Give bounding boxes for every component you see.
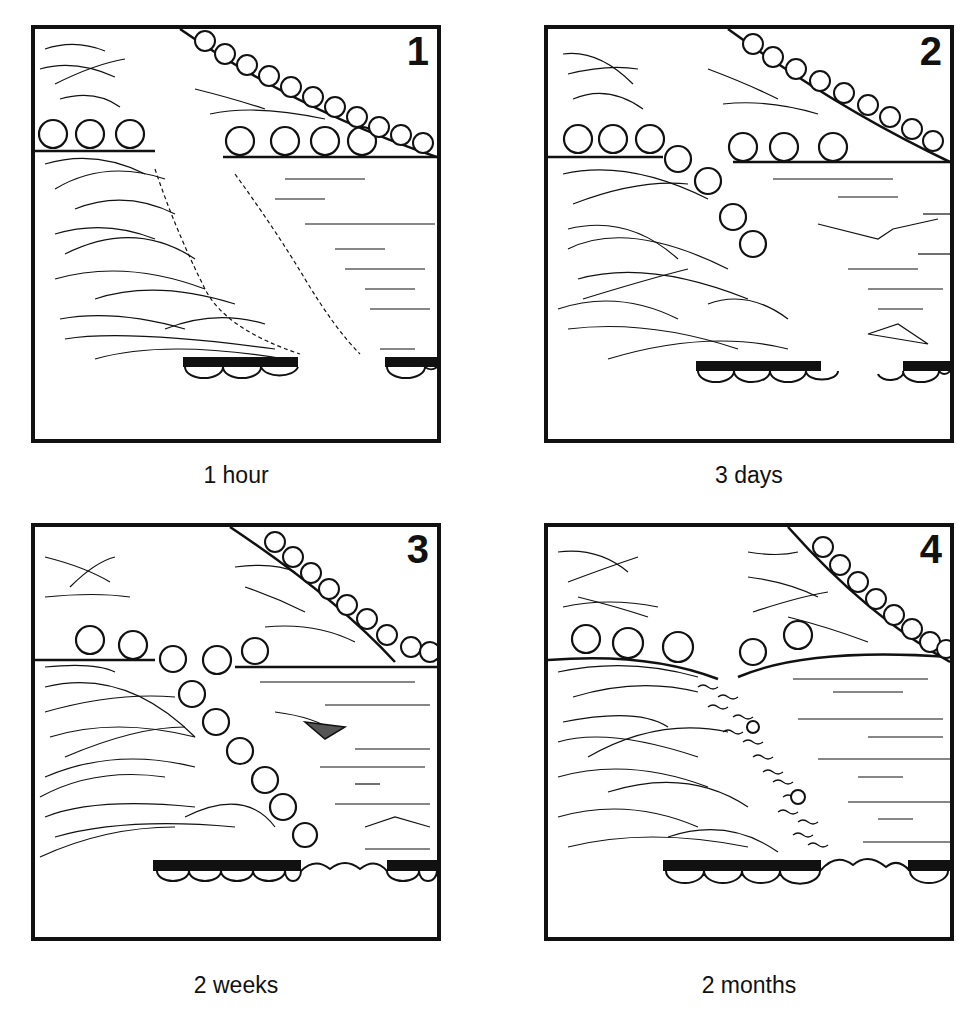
panel-3: 3 <box>31 523 441 941</box>
panel-3-caption: 2 weeks <box>31 972 441 999</box>
panel-1-caption: 1 hour <box>31 462 441 489</box>
panel-4-caption: 2 months <box>544 972 954 999</box>
panel-4: 4 <box>544 523 954 941</box>
panel-number: 1 <box>407 31 429 71</box>
panel-2-illustration <box>548 29 950 439</box>
panel-number: 4 <box>920 529 942 569</box>
panel-2: 2 <box>544 25 954 443</box>
panel-number: 2 <box>920 31 942 71</box>
panel-1: 1 <box>31 25 441 443</box>
panel-3-illustration <box>35 527 437 937</box>
panel-4-illustration <box>548 527 950 937</box>
panel-1-illustration <box>35 29 437 439</box>
panel-number: 3 <box>407 529 429 569</box>
panel-2-caption: 3 days <box>544 462 954 489</box>
